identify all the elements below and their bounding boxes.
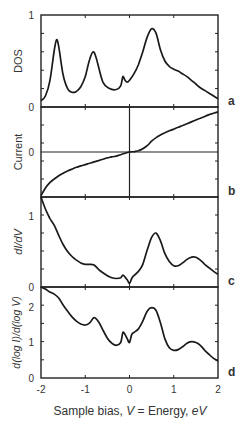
y-axis-label-a: DOS: [12, 49, 24, 73]
y-tick-label: 0: [28, 102, 34, 113]
curve-a: [41, 29, 218, 101]
panel-letter-b: b: [228, 184, 235, 198]
x-tick-label: -2: [37, 384, 46, 395]
y-tick-label: 1: [28, 10, 34, 21]
y-axis-label-c: dI/dV: [12, 227, 24, 254]
y-axis-label-b: Current: [12, 134, 24, 171]
y-tick-label: 0: [28, 373, 34, 384]
x-tick-label: 1: [171, 384, 177, 395]
panel-letter-c: c: [228, 274, 235, 288]
curve-c: [41, 197, 218, 284]
y-tick-label: 0: [28, 147, 34, 158]
x-axis-label: Sample bias, V = Energy, eV: [54, 404, 208, 418]
curve-d: [41, 287, 218, 361]
panel-frame-d: [41, 287, 218, 378]
y-tick-label: 1: [28, 337, 34, 348]
panel-letter-a: a: [228, 94, 235, 108]
panel-frame-c: [41, 197, 218, 287]
y-axis-label-d: d(log I)/d(log V): [10, 296, 22, 368]
panel-letter-d: d: [228, 365, 235, 379]
y-tick-label: 2: [28, 302, 34, 313]
panel-frame-a: [41, 15, 218, 107]
y-tick-label: 1: [28, 211, 34, 222]
x-tick-label: 0: [127, 384, 133, 395]
figure: 01DOSa0Currentb01dI/dVc012d(log I)/d(log…: [0, 0, 246, 432]
x-tick-label: 2: [215, 384, 221, 395]
x-tick-label: -1: [81, 384, 90, 395]
y-tick-label: 0: [28, 282, 34, 293]
